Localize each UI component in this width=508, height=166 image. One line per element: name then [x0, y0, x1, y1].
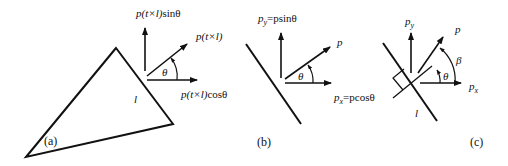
theta-label: θ	[162, 66, 168, 78]
panel-b-caption: (b)	[257, 135, 271, 149]
py-label-c: py	[404, 15, 415, 30]
px-label-c: px	[468, 80, 479, 95]
panel-c: θ β l py p px (c)	[383, 15, 483, 149]
theta-arc-b	[308, 65, 313, 83]
surface-line	[246, 44, 301, 124]
p-arrow	[285, 47, 330, 79]
horizontal-component-label: p(t×l)cosθ	[180, 88, 227, 101]
theta-arc	[171, 58, 177, 80]
vertical-component-label: p(t×l)sinθ	[135, 7, 180, 20]
surface-line-c	[383, 43, 437, 121]
py-label: py=psinθ	[257, 12, 297, 27]
resultant-label: p(t×l)	[195, 30, 223, 43]
p-label-c: p	[454, 23, 461, 35]
theta-arc-c	[437, 70, 440, 83]
panel-c-caption: (c)	[470, 135, 483, 149]
theta-label-b: θ	[298, 70, 304, 82]
p-label-b: p	[336, 36, 343, 48]
beta-label: β	[455, 54, 462, 66]
panel-b: θ py=psinθ p px=pcosθ (b)	[246, 12, 375, 149]
panel-a-caption: (a)	[44, 134, 57, 148]
edge-label-l: l	[134, 93, 137, 105]
theta-label-c: θ	[443, 70, 449, 82]
px-label: px=pcosθ	[333, 91, 375, 106]
normal-line	[393, 66, 432, 98]
panel-a: (a) l θ p(t×l)sinθ p(t×l) p(t×l)cosθ	[26, 7, 227, 157]
edge-label-l-c: l	[415, 107, 418, 119]
momentum-decomposition-figure: (a) l θ p(t×l)sinθ p(t×l) p(t×l)cosθ θ p…	[0, 0, 508, 166]
